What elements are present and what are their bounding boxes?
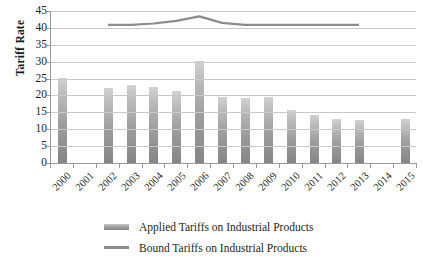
x-tick-mark-1 <box>73 163 74 168</box>
y-tick-mark-20 <box>47 95 51 96</box>
x-tick-mark-15 <box>393 163 394 168</box>
bound-tariffs-line <box>108 16 359 24</box>
gridline-25 <box>51 79 416 80</box>
gridline-15 <box>51 112 416 113</box>
y-tick-mark-25 <box>47 79 51 80</box>
legend-label-bound-tariffs: Bound Tariffs on Industrial Products <box>139 242 307 254</box>
x-tick-mark-6 <box>187 163 188 168</box>
y-tick-label-5: 5 <box>17 140 47 152</box>
x-tick-mark-10 <box>279 163 280 168</box>
x-tick-mark-0 <box>50 163 51 168</box>
y-tick-label-0: 0 <box>17 157 47 169</box>
y-tick-label-30: 30 <box>17 56 47 68</box>
plot-area <box>50 11 416 163</box>
gridline-10 <box>51 129 416 130</box>
y-tick-label-10: 10 <box>17 123 47 135</box>
gridline-45 <box>51 11 416 12</box>
chart-legend: Applied Tariffs on Industrial Products B… <box>0 216 423 258</box>
y-tick-label-25: 25 <box>17 73 47 85</box>
gridline-5 <box>51 146 416 147</box>
y-tick-mark-30 <box>47 62 51 63</box>
x-tick-mark-8 <box>233 163 234 168</box>
x-tick-mark-13 <box>347 163 348 168</box>
y-tick-mark-45 <box>47 11 51 12</box>
y-tick-mark-35 <box>47 45 51 46</box>
x-tick-mark-7 <box>210 163 211 168</box>
line-swatch-icon <box>104 246 129 249</box>
y-tick-mark-10 <box>47 129 51 130</box>
tariff-rate-chart: Tariff Rate 051015202530354045 200020012… <box>0 0 423 262</box>
y-tick-mark-15 <box>47 112 51 113</box>
x-axis-tick-layer <box>50 163 416 168</box>
x-tick-mark-2 <box>96 163 97 168</box>
legend-item-bound-tariffs: Bound Tariffs on Industrial Products <box>0 237 423 258</box>
y-tick-label-45: 45 <box>17 5 47 17</box>
y-tick-label-35: 35 <box>17 39 47 51</box>
x-tick-mark-12 <box>325 163 326 168</box>
x-tick-mark-14 <box>370 163 371 168</box>
x-tick-mark-9 <box>256 163 257 168</box>
y-tick-label-15: 15 <box>17 106 47 118</box>
gridline-40 <box>51 28 416 29</box>
x-tick-mark-5 <box>164 163 165 168</box>
legend-label-applied-tariffs: Applied Tariffs on Industrial Products <box>139 221 313 233</box>
x-tick-mark-3 <box>119 163 120 168</box>
gridline-20 <box>51 95 416 96</box>
y-tick-label-40: 40 <box>17 22 47 34</box>
bar-swatch-icon <box>104 224 129 230</box>
gridline-30 <box>51 62 416 63</box>
y-tick-mark-40 <box>47 28 51 29</box>
legend-item-applied-tariffs: Applied Tariffs on Industrial Products <box>0 216 423 237</box>
y-tick-label-20: 20 <box>17 89 47 101</box>
x-tick-mark-16 <box>416 163 417 168</box>
bound-tariffs-line-layer <box>51 11 416 163</box>
gridline-35 <box>51 45 416 46</box>
x-tick-mark-11 <box>302 163 303 168</box>
x-tick-mark-4 <box>142 163 143 168</box>
y-tick-mark-5 <box>47 146 51 147</box>
